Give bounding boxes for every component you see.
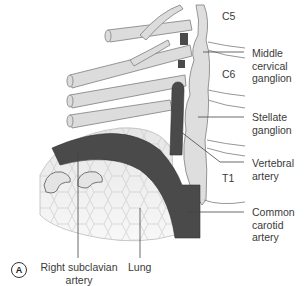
- label-middle-cervical-ganglion: Middle cervical ganglion: [252, 47, 292, 85]
- level-c6: C6: [222, 68, 235, 81]
- panel-label: A: [11, 262, 27, 278]
- label-lung: Lung: [128, 261, 151, 274]
- vertebral-artery: [170, 82, 184, 155]
- label-common-carotid-artery: Common carotid artery: [252, 206, 295, 244]
- vertebral-artery-segment: [180, 33, 188, 45]
- level-t1: T1: [222, 172, 234, 185]
- label-stellate-ganglion: Stellate ganglion: [252, 111, 292, 136]
- label-vertebral-artery: Vertebral artery: [252, 157, 294, 182]
- level-c5: C5: [222, 10, 235, 23]
- label-right-subclavian-artery: Right subclavian artery: [38, 261, 120, 286]
